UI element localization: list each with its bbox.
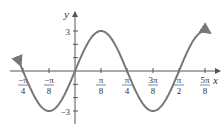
x-tick-numerator: −π (44, 75, 54, 85)
y-tick-label: −3 (60, 107, 70, 117)
x-axis-label: x (212, 74, 218, 86)
x-tick-denominator: 2 (177, 86, 182, 96)
x-tick-numerator: 3π (148, 75, 158, 85)
x-tick-denominator: 8 (203, 86, 208, 96)
x-tick-denominator: 4 (125, 86, 130, 96)
x-tick-numerator: 5π (200, 75, 210, 85)
x-tick-denominator: 8 (99, 86, 104, 96)
x-tick-numerator: π (99, 75, 104, 85)
sine-graph: xy3−3−π4−π8π8π43π8π25π8 (0, 0, 224, 138)
y-axis-label: y (63, 8, 69, 20)
y-tick-label: 3 (66, 27, 71, 37)
x-tick-denominator: 8 (47, 86, 52, 96)
x-tick-denominator: 4 (21, 86, 26, 96)
x-tick-denominator: 8 (151, 86, 156, 96)
